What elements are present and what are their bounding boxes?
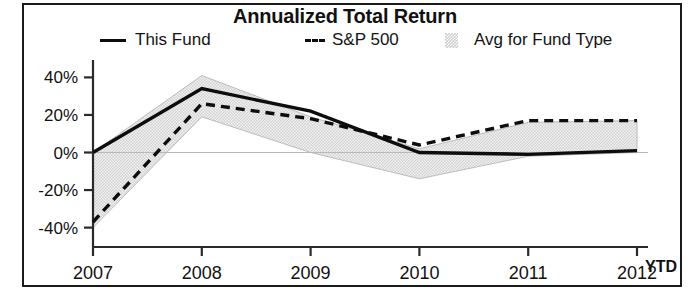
y-axis-tick-label: -20% xyxy=(38,181,78,200)
avg-fund-type-band xyxy=(93,76,637,228)
x-axis-tick-label: 2010 xyxy=(399,263,439,283)
annualized-total-return-chart: Annualized Total Return This Fund S&P 50… xyxy=(0,0,690,298)
x-axis-ticks xyxy=(93,247,637,256)
y-axis-ticks xyxy=(84,77,93,227)
plot-area: 40%20%0%-20%-40% 20072008200920102011201… xyxy=(0,0,690,298)
x-axis-tick-label: 2011 xyxy=(509,263,548,283)
x-axis-labels: 200720082009201020112012 xyxy=(73,263,657,283)
y-axis-tick-label: 0% xyxy=(53,144,78,163)
x-axis-tick-label: 2007 xyxy=(73,263,113,283)
ytd-label: YTD xyxy=(645,258,677,276)
x-axis-tick-label: 2009 xyxy=(291,263,331,283)
y-axis-tick-label: -40% xyxy=(38,219,78,238)
x-axis-tick-label: 2008 xyxy=(182,263,222,283)
plot-svg: 40%20%0%-20%-40% 20072008200920102011201… xyxy=(0,0,690,298)
y-axis-labels: 40%20%0%-20%-40% xyxy=(38,68,78,237)
y-axis-tick-label: 40% xyxy=(44,68,78,87)
y-axis-tick-label: 20% xyxy=(44,106,78,125)
